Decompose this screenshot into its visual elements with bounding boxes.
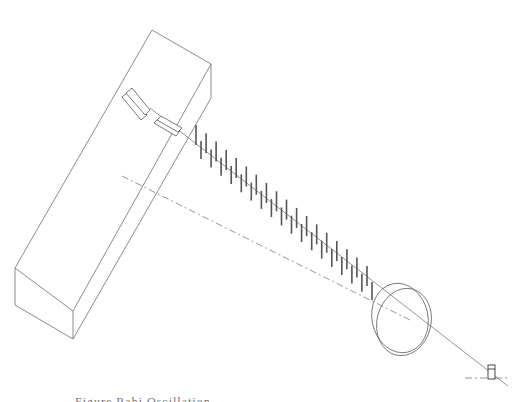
small-target [488, 365, 495, 379]
mirror-plates [122, 88, 182, 136]
ring-pair [365, 278, 438, 362]
beamline-diagram [0, 0, 530, 402]
figure-caption: Figure Rabi Oscillation [75, 396, 211, 402]
large-rectangular-box [15, 30, 211, 339]
beam-line [150, 108, 508, 386]
